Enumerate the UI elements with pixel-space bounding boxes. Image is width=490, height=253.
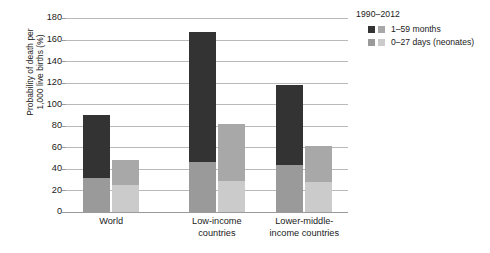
legend-swatch-2012 bbox=[378, 26, 385, 33]
legend-title: 1990–2012 bbox=[356, 9, 490, 19]
y-tick-label: 100 bbox=[38, 100, 62, 109]
x-axis-line bbox=[66, 212, 348, 213]
y-tick-label: 60 bbox=[38, 143, 62, 152]
bar-group bbox=[66, 18, 348, 212]
y-tick-label: 160 bbox=[38, 35, 62, 44]
y-axis-title-line1: Probability of death per bbox=[25, 28, 35, 115]
x-label-line: Lower-middle- bbox=[249, 216, 359, 228]
y-tick-label: 140 bbox=[38, 57, 62, 66]
x-axis-category-labels: WorldLow-incomecountriesLower-middle-inc… bbox=[66, 216, 348, 250]
legend-rows: 1–59 months0–27 days (neonates) bbox=[356, 24, 490, 47]
y-tick-label: 120 bbox=[38, 78, 62, 87]
legend-swatch-1990 bbox=[368, 26, 375, 33]
legend-label: 0–27 days (neonates) bbox=[391, 37, 474, 47]
legend-item: 1–59 months bbox=[368, 24, 490, 34]
x-label-line: World bbox=[56, 216, 166, 228]
legend-label: 1–59 months bbox=[391, 24, 441, 34]
x-axis-label: World bbox=[56, 216, 166, 228]
y-tick-label: 180 bbox=[38, 13, 62, 22]
legend-item: 0–27 days (neonates) bbox=[368, 37, 490, 47]
bar-2012 bbox=[305, 146, 332, 212]
x-label-line: income countries bbox=[249, 228, 359, 240]
bar-segment bbox=[276, 85, 303, 165]
y-tick-label: 20 bbox=[38, 186, 62, 195]
y-tick-label: 40 bbox=[38, 164, 62, 173]
y-tick-label: 80 bbox=[38, 121, 62, 130]
legend-swatch-2012 bbox=[378, 39, 385, 46]
plot-area bbox=[66, 18, 348, 212]
bar-1990 bbox=[276, 85, 303, 212]
x-axis-label: Lower-middle-income countries bbox=[249, 216, 359, 239]
legend: 1990–2012 1–59 months0–27 days (neonates… bbox=[356, 9, 490, 50]
legend-swatch-1990 bbox=[368, 39, 375, 46]
bar-segment bbox=[305, 182, 332, 212]
bar-segment bbox=[276, 165, 303, 212]
bar-segment bbox=[305, 146, 332, 182]
chart-figure: Probability of death per 1,000 live birt… bbox=[0, 0, 490, 253]
